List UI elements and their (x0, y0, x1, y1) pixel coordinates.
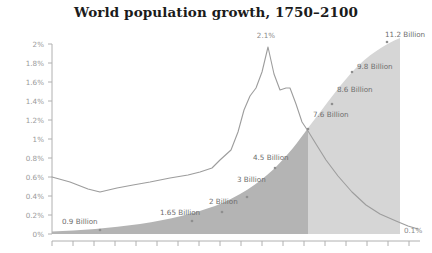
y-axis-tick-label: 1.2% (26, 116, 44, 125)
y-axis-tick-label: 0.8% (26, 154, 44, 163)
population-growth-chart: 0% 0.2% 0.4% 0.6% 0.8% 1% 1.2% 1.4% 1.6%… (0, 0, 432, 253)
y-axis-tick-label: 0.6% (26, 173, 44, 182)
x-axis (52, 241, 420, 246)
annotation-pop-0-9: 0.9 Billion (62, 217, 98, 226)
data-point-marker (386, 41, 389, 44)
y-axis-tick-label: 1.8% (26, 59, 44, 68)
data-point-marker (191, 220, 194, 223)
annotation-pop-4-5: 4.5 Billion (253, 153, 289, 162)
annotation-rate-peak: 2.1% (257, 31, 275, 40)
chart-container: World population growth, 1750–2100 0% 0.… (0, 0, 432, 253)
y-axis: 0% 0.2% 0.4% 0.6% 0.8% 1% 1.2% 1.4% 1.6%… (26, 40, 52, 239)
annotation-pop-7-6: 7.6 Billion (313, 110, 349, 119)
y-axis-tick-label: 0.4% (26, 192, 44, 201)
annotation-pop-1-65: 1.65 Billion (160, 208, 200, 217)
data-point-marker (221, 211, 224, 214)
annotation-pop-3: 3 Billion (237, 175, 266, 184)
annotation-pop-2: 2 Billion (209, 197, 238, 206)
y-axis-tick-label: 1.6% (26, 78, 44, 87)
data-point-marker (99, 229, 102, 232)
annotation-pop-11-2: 11.2 Billion (385, 30, 425, 39)
y-axis-tick-label: 0% (33, 230, 45, 239)
data-point-marker (246, 196, 249, 199)
y-axis-tick-label: 2% (33, 40, 45, 49)
data-point-marker (351, 71, 354, 74)
annotation-pop-8-6: 8.6 Billion (337, 85, 373, 94)
data-point-marker (307, 128, 310, 131)
data-point-marker (274, 167, 277, 170)
annotation-rate-end: 0.1% (404, 226, 422, 235)
data-point-marker (331, 103, 334, 106)
y-axis-tick-label: 1% (33, 135, 45, 144)
y-axis-tick-label: 0.2% (26, 211, 44, 220)
annotation-pop-9-8: 9.8 Billion (357, 62, 393, 71)
y-axis-tick-label: 1.4% (26, 97, 44, 106)
